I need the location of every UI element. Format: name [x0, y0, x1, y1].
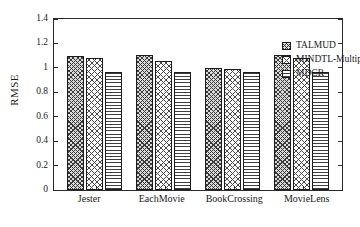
legend-swatch [282, 42, 291, 50]
y-tick-label: 0.2 [36, 159, 48, 172]
x-tick-mark [96, 186, 97, 190]
bar [312, 72, 329, 190]
y-axis-label: RMSE [8, 60, 20, 120]
chart-legend: TALMUDMINDTL-MultipleMDCR [282, 40, 360, 79]
bar [205, 68, 222, 190]
legend-label: MDCR [296, 68, 324, 79]
bar [155, 61, 172, 190]
x-tick-mark [165, 186, 166, 190]
y-tick-label: 0.6 [36, 110, 48, 123]
bar [224, 69, 241, 190]
legend-label: MINDTL-Multiple [296, 54, 360, 65]
x-axis-label: MovieLens [271, 193, 344, 204]
y-tick-label: 0.8 [36, 85, 48, 98]
bar-group [136, 19, 191, 190]
x-tick-mark [303, 186, 304, 190]
y-tick-label: 0 [43, 183, 48, 196]
y-tick-label: 1 [43, 61, 48, 74]
x-axis-label: EachMovie [126, 193, 199, 204]
legend-swatch [282, 56, 291, 64]
legend-label: TALMUD [296, 40, 336, 51]
y-tick-label: 1.2 [36, 36, 48, 49]
rmse-bar-chart: RMSE 00.20.40.60.811.21.4 TALMUDMINDTL-M… [0, 0, 360, 227]
legend-swatch [282, 70, 291, 78]
plot-area: 00.20.40.60.811.21.4 TALMUDMINDTL-Multip… [53, 18, 343, 191]
x-tick-mark [234, 186, 235, 190]
x-axis-label: BookCrossing [198, 193, 271, 204]
x-axis-labels: JesterEachMovieBookCrossingMovieLens [53, 193, 343, 204]
legend-item: MINDTL-Multiple [282, 54, 360, 65]
bar [105, 72, 122, 190]
legend-item: TALMUD [282, 40, 360, 51]
x-axis-label: Jester [53, 193, 126, 204]
bar-group [67, 19, 122, 190]
bar-group [205, 19, 260, 190]
bar [136, 55, 153, 190]
y-tick-label: 0.4 [36, 134, 48, 147]
legend-item: MDCR [282, 68, 360, 79]
bar [243, 72, 260, 190]
bar [86, 58, 103, 190]
y-tick-label: 1.4 [36, 12, 48, 25]
bar [174, 72, 191, 190]
bar [67, 56, 84, 190]
